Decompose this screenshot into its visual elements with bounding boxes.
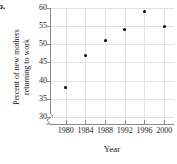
scatter-plot-figure: b. Percent of new mothers returning to w… <box>0 0 177 164</box>
y-axis-tick-label: 45 <box>31 58 47 66</box>
data-point <box>143 10 146 13</box>
part-label: b. <box>0 1 5 11</box>
y-axis-tick <box>47 62 51 63</box>
x-axis-tick <box>105 120 106 124</box>
gridline-vertical <box>66 8 67 124</box>
y-axis-tick <box>47 99 51 100</box>
y-axis-tick-label: 35 <box>31 95 47 103</box>
gridline-horizontal <box>51 117 174 118</box>
plot-area <box>51 8 174 124</box>
gridline-vertical <box>144 8 145 124</box>
y-axis-tick-label: 40 <box>31 77 47 85</box>
gridline-horizontal <box>51 8 174 9</box>
y-axis-tick-labels: 30354045505560 <box>31 0 47 130</box>
y-axis-tick-label: 50 <box>31 40 47 48</box>
gridline-horizontal <box>51 99 174 100</box>
x-axis-title: Year <box>50 144 174 154</box>
x-axis-tick <box>125 120 126 124</box>
x-axis-line <box>50 124 174 125</box>
data-point <box>163 25 166 28</box>
y-axis-tick-label: 55 <box>31 22 47 30</box>
y-axis-tick <box>47 8 51 9</box>
x-axis-tick <box>144 120 145 124</box>
y-axis-tick <box>47 117 51 118</box>
data-point <box>104 39 107 42</box>
y-axis-title-line-1: Percent of new mothers <box>12 29 22 105</box>
x-axis-tick-labels: 198019841988199219962000 <box>0 126 177 138</box>
x-axis-tick <box>164 120 165 124</box>
x-axis-tick <box>85 120 86 124</box>
data-point <box>84 54 87 57</box>
data-point <box>64 86 67 89</box>
gridline-vertical <box>125 8 126 124</box>
gridline-horizontal <box>51 62 174 63</box>
y-axis-tick <box>47 44 51 45</box>
x-axis-tick-label: 2000 <box>151 126 177 136</box>
gridline-horizontal <box>51 81 174 82</box>
y-axis-tick-label: 60 <box>31 4 47 12</box>
gridline-vertical <box>105 8 106 124</box>
y-axis-tick <box>47 26 51 27</box>
y-axis-tick <box>47 81 51 82</box>
gridline-horizontal <box>51 26 174 27</box>
gridline-vertical <box>85 8 86 124</box>
gridline-horizontal <box>51 44 174 45</box>
data-point <box>123 28 126 31</box>
x-axis-tick <box>66 120 67 124</box>
